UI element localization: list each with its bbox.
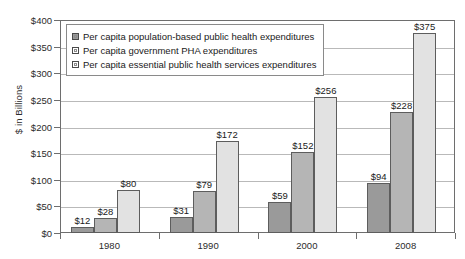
bar: $228 <box>390 112 413 233</box>
legend-label: Per capita population-based public healt… <box>83 31 314 42</box>
legend-label: Per capita essential public health servi… <box>83 59 316 70</box>
bar-value-label: $12 <box>74 215 90 226</box>
bar: $172 <box>216 141 239 233</box>
legend-swatch-icon <box>72 33 79 40</box>
bar-value-label: $94 <box>371 171 387 182</box>
y-axis-tick-label: $150 <box>4 148 52 159</box>
legend-item: Per capita essential public health servi… <box>72 57 316 71</box>
legend-swatch-icon <box>72 61 79 68</box>
bar-value-label: $256 <box>315 85 336 96</box>
bar-value-label: $80 <box>120 178 136 189</box>
x-axis-category-label: 2000 <box>296 240 317 251</box>
bar-value-label: $28 <box>97 206 113 217</box>
y-axis-tick-label: $100 <box>4 174 52 185</box>
x-axis-category-label: 1980 <box>99 240 120 251</box>
bar-value-label: $375 <box>414 21 435 32</box>
x-axis-category-label: 1990 <box>198 240 219 251</box>
bar-value-label: $228 <box>391 100 412 111</box>
y-axis-tick-label: $200 <box>4 121 52 132</box>
bar-value-label: $59 <box>272 190 288 201</box>
bar: $94 <box>367 183 390 233</box>
x-axis-tick <box>455 233 456 239</box>
legend-item: Per capita population-based public healt… <box>72 29 316 43</box>
y-axis-tick-label: $50 <box>4 201 52 212</box>
bar-group: $94$228$375 <box>356 20 455 233</box>
y-axis-tick-label: $400 <box>4 15 52 26</box>
legend-item: Per capita government PHA expenditures <box>72 43 316 57</box>
legend-label: Per capita government PHA expenditures <box>83 45 257 56</box>
chart-legend: Per capita population-based public healt… <box>66 24 324 76</box>
x-axis-tick <box>356 233 357 239</box>
bar: $28 <box>94 218 117 233</box>
bar: $31 <box>170 217 193 234</box>
bar: $12 <box>71 227 94 233</box>
bar-value-label: $79 <box>196 179 212 190</box>
x-axis-tick <box>60 233 61 239</box>
x-axis-tick <box>258 233 259 239</box>
bar-value-label: $152 <box>292 140 313 151</box>
y-axis-tick-label: $300 <box>4 68 52 79</box>
bar-value-label: $31 <box>173 205 189 216</box>
bar: $59 <box>268 202 291 233</box>
bar: $152 <box>291 152 314 233</box>
bar: $80 <box>117 190 140 233</box>
y-axis-tick-label: $250 <box>4 94 52 105</box>
bar-value-label: $172 <box>217 129 238 140</box>
y-axis-tick-label: $0 <box>4 228 52 239</box>
y-axis-tick-label: $350 <box>4 41 52 52</box>
bar-chart: $ in Billions $0$50$100$150$200$250$300$… <box>0 0 465 259</box>
bar: $79 <box>193 191 216 233</box>
bar: $256 <box>314 97 337 233</box>
legend-swatch-icon <box>72 47 79 54</box>
x-axis-category-label: 2008 <box>395 240 416 251</box>
bar: $375 <box>413 33 436 233</box>
x-axis-tick <box>159 233 160 239</box>
